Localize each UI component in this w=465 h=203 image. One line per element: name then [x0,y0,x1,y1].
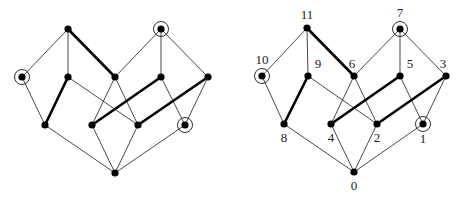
node-9: 9 [304,56,321,80]
node-label: 11 [301,7,314,22]
edges [22,29,208,173]
node-2 [134,121,141,128]
vertex-dot-icon [419,120,426,127]
node-6: 6 [349,56,358,80]
node-3 [204,73,211,80]
thick-edge-9-8 [45,77,68,125]
node-label: 0 [351,178,358,193]
vertex-dot-icon [64,73,71,80]
node-6 [111,73,118,80]
node-11: 11 [301,7,314,32]
node-label: 5 [407,56,414,71]
node-3: 3 [440,56,450,80]
node-9 [64,73,71,80]
node-4: 4 [327,120,334,145]
thick-edge-5-4 [331,76,400,124]
node-4 [88,121,95,128]
vertex-dot-icon [18,73,25,80]
node-5: 5 [396,56,413,80]
vertex-dot-icon [303,24,310,31]
edge-11-10 [22,29,68,77]
vertex-dot-icon [111,169,118,176]
vertex-dot-icon [88,121,95,128]
edge-1-0 [354,124,423,172]
vertex-dot-icon [111,73,118,80]
edge-7-6 [354,29,400,76]
vertex-dot-icon [134,121,141,128]
node-1: 1 [416,117,431,147]
edge-4-0 [92,125,115,173]
edge-10-8 [22,77,45,125]
edge-7-6 [115,29,161,77]
labeled-lattice-graph: 01234567891011 [255,5,450,193]
node-5 [157,73,164,80]
unlabeled-lattice-graph [15,22,212,177]
node-8 [41,121,48,128]
vertex-dot-icon [204,73,211,80]
edge-4-0 [331,124,354,172]
vertex-dot-icon [396,25,403,32]
edge-8-0 [284,124,354,172]
vertex-dot-icon [157,25,164,32]
edge-11-9 [307,28,308,76]
node-label: 9 [315,56,322,71]
vertex-dot-icon [64,25,71,32]
node-10: 10 [255,52,270,84]
vertex-dot-icon [41,121,48,128]
edge-7-3 [161,29,208,77]
node-2: 2 [373,120,380,145]
node-7: 7 [393,5,408,37]
edge-1-0 [115,125,185,173]
nodes [15,22,212,177]
edges [262,28,446,172]
edge-2-0 [115,125,138,173]
thick-edge-11-6 [68,29,115,77]
node-label: 10 [256,52,269,67]
node-label: 8 [281,130,288,145]
vertex-dot-icon [373,120,380,127]
node-label: 1 [420,131,427,146]
node-label: 7 [397,5,404,20]
edge-8-0 [45,125,115,173]
node-10 [15,70,30,85]
node-label: 4 [328,130,335,145]
thick-edge-3-2 [377,76,446,124]
node-1 [178,118,193,133]
vertex-dot-icon [157,73,164,80]
nodes: 01234567891011 [255,5,450,193]
vertex-dot-icon [350,72,357,79]
thick-edge-9-8 [284,76,308,124]
node-8: 8 [280,120,287,145]
lattice-diagram: 01234567891011 [0,0,465,203]
vertex-dot-icon [280,120,287,127]
vertex-dot-icon [258,72,265,79]
node-label: 2 [374,130,381,145]
vertex-dot-icon [327,120,334,127]
node-11 [64,25,71,32]
node-label: 6 [349,56,356,71]
vertex-dot-icon [442,72,449,79]
edge-11-10 [262,28,307,76]
node-label: 3 [440,56,447,71]
vertex-dot-icon [350,168,357,175]
node-0: 0 [350,168,357,193]
vertex-dot-icon [304,72,311,79]
node-0 [111,169,118,176]
vertex-dot-icon [396,72,403,79]
vertex-dot-icon [181,121,188,128]
